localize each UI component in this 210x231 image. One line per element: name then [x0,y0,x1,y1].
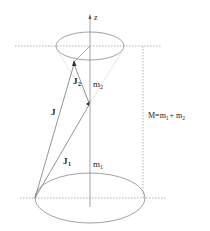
label-J: J [51,107,56,117]
label-m1: m [93,159,100,169]
label-m1-sub: 1 [100,164,103,170]
label-m2: m [93,79,100,89]
vector-J [35,64,74,198]
label-J1-sub: 1 [68,161,71,167]
z-axis-label: z [94,13,98,22]
label-total-M: M=m1+ m2 [148,111,185,121]
vector-J1 [35,105,89,198]
vector-J1-arrow-icon [86,101,90,106]
label-J2-sub: 2 [78,81,81,87]
z-axis-arrow-icon [89,14,92,19]
angular-momentum-coupling-diagram: z J J 1 J 2 m 2 m 1 M=m1+ m2 [0,0,210,231]
label-m2-sub: 2 [100,84,103,90]
vector-J-arrow-icon [72,60,77,66]
